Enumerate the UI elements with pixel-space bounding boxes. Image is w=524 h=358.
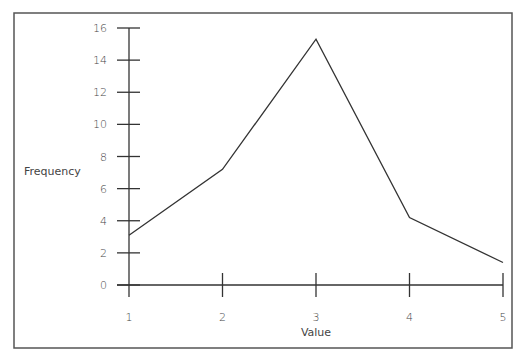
x-tick-label: 4 [406, 311, 413, 324]
x-tick-label: 1 [126, 311, 133, 324]
line-chart: 0246810121416 12345 Frequency Value [0, 0, 524, 358]
y-tick-label: 6 [100, 183, 107, 196]
y-tick-label: 4 [100, 215, 107, 228]
x-axis-title: Value [301, 326, 331, 339]
x-axis: 12345 [117, 273, 507, 324]
y-tick-label: 14 [93, 54, 107, 67]
y-tick-label: 0 [100, 279, 107, 292]
x-tick-label: 5 [500, 311, 507, 324]
data-line [129, 39, 503, 262]
y-tick-label: 12 [93, 86, 107, 99]
y-tick-label: 16 [93, 22, 107, 35]
y-tick-label: 2 [100, 247, 107, 260]
x-tick-label: 3 [313, 311, 320, 324]
y-tick-label: 8 [100, 151, 107, 164]
y-axis: 0246810121416 [93, 22, 140, 297]
y-axis-title: Frequency [24, 165, 81, 178]
y-tick-label: 10 [93, 118, 107, 131]
x-tick-label: 2 [219, 311, 226, 324]
chart-border [14, 13, 512, 348]
